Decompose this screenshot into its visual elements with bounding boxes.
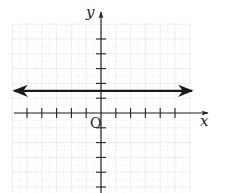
origin-label: O xyxy=(90,115,101,131)
grid-lines xyxy=(12,24,192,193)
x-axis-label: x xyxy=(200,112,209,130)
coordinate-plane: x y O xyxy=(0,0,232,193)
y-axis-label: y xyxy=(85,3,95,21)
